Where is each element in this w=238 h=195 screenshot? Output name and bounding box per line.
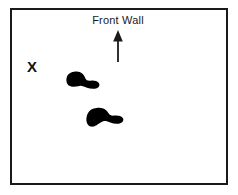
diagram-figure: Front Wall X — [0, 0, 238, 195]
front-wall-label: Front Wall — [72, 14, 164, 26]
footprint-impression-lower — [86, 107, 124, 131]
position-marker-x: X — [24, 58, 40, 76]
arrow-up-icon — [108, 30, 128, 62]
footprint-impression-upper — [66, 71, 100, 92]
